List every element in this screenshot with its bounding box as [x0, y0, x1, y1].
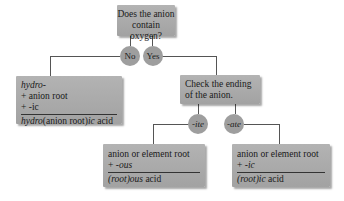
check-line-1: Check the ending	[185, 79, 260, 90]
divider-rule	[237, 172, 325, 173]
ite-result-box: anion or element root + -ous (root)ous a…	[103, 144, 205, 187]
check-line-2: of the anion.	[185, 90, 260, 101]
connector-yes-horizontal	[162, 56, 217, 57]
check-ending-box: Check the ending of the anion.	[180, 75, 260, 104]
ate-root-line: anion or element root	[237, 149, 325, 160]
connector-check-ite	[198, 104, 199, 114]
connector-no-horizontal	[50, 56, 120, 57]
connector-check-ate	[235, 104, 236, 114]
ate-acid-result: (root)ic acid	[237, 174, 325, 185]
branch-ite-label: -ite	[192, 119, 204, 129]
branch-yes-label: Yes	[146, 51, 159, 61]
connector-no-vertical	[50, 56, 51, 76]
connector-ite-vertical	[153, 124, 154, 145]
ic-suffix-line: + -ic	[21, 102, 117, 113]
branch-no-circle: No	[120, 46, 140, 66]
anion-root-line: + anion root	[21, 91, 117, 102]
connector-ate-vertical	[279, 124, 280, 145]
hydro-prefix-line: hydro-	[21, 80, 117, 91]
question-line-2: contain oxygen?	[117, 20, 175, 42]
hydro-acid-result: hydro(anion root)ic acid	[21, 116, 117, 127]
ite-root-line: anion or element root	[108, 149, 200, 160]
connector-yes-vertical	[216, 56, 217, 76]
question-box: Does the anion contain oxygen?	[117, 5, 175, 36]
divider-rule	[21, 114, 117, 115]
question-line-1: Does the anion	[117, 9, 175, 20]
branch-ite-circle: -ite	[188, 114, 208, 134]
ate-suffix-line: + -ic	[237, 160, 325, 171]
ite-suffix-line: + -ous	[108, 160, 200, 171]
branch-ate-circle: -ate	[224, 114, 244, 134]
branch-no-label: No	[125, 51, 136, 61]
ate-result-box: anion or element root + -ic (root)ic aci…	[232, 144, 330, 187]
no-oxygen-box: hydro- + anion root + -ic hydro(anion ro…	[16, 76, 122, 124]
branch-yes-circle: Yes	[143, 46, 163, 66]
connector-ate-horizontal	[244, 124, 279, 125]
divider-rule	[108, 172, 200, 173]
connector-ite-horizontal	[153, 124, 189, 125]
ite-acid-result: (root)ous acid	[108, 174, 200, 185]
branch-ate-label: -ate	[227, 119, 241, 129]
